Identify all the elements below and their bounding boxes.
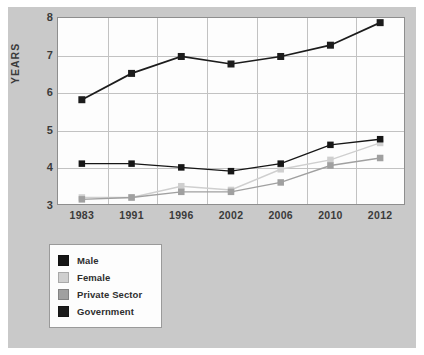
series-marker — [228, 61, 235, 68]
legend-item: Male — [58, 252, 155, 269]
legend-items: MaleFemalePrivate SectorGovernment — [58, 252, 155, 320]
y-axis-tick-label: 8 — [33, 11, 53, 23]
y-axis-title: YEARS — [9, 43, 21, 84]
legend-swatch-icon — [58, 289, 69, 300]
y-axis-tick-label: 5 — [33, 124, 53, 136]
y-axis-tick-labels: 345678 — [33, 17, 53, 205]
x-axis-tick-label: 2002 — [219, 209, 244, 221]
series-marker — [178, 53, 185, 60]
y-axis-tick-label: 7 — [33, 49, 53, 61]
legend-item-label: Female — [77, 272, 110, 283]
series-marker — [228, 168, 235, 175]
x-axis-tick-label: 2006 — [268, 209, 293, 221]
chart-figure: YEARS 345678 198319911996200220062010201… — [0, 0, 424, 355]
legend-item: Government — [58, 303, 155, 320]
series-line — [82, 139, 380, 171]
legend-swatch-icon — [58, 306, 69, 317]
x-axis-tick-label: 2010 — [318, 209, 343, 221]
y-axis-tick-label: 3 — [33, 199, 53, 211]
series-marker — [78, 96, 85, 103]
x-axis-tick-label: 2012 — [368, 209, 393, 221]
legend-item: Private Sector — [58, 286, 155, 303]
series-marker — [327, 157, 334, 164]
x-axis-tick-label: 1996 — [169, 209, 194, 221]
series-marker — [277, 166, 284, 173]
legend-item-label: Male — [77, 255, 99, 266]
series-marker — [277, 160, 284, 167]
series-marker — [377, 136, 384, 143]
series-marker — [228, 189, 235, 196]
series-marker — [128, 160, 135, 167]
series-marker — [128, 70, 135, 77]
legend-swatch-icon — [58, 255, 69, 266]
series-marker — [377, 19, 384, 26]
series-marker — [327, 162, 334, 169]
series-marker — [178, 164, 185, 171]
legend-item-label: Private Sector — [77, 289, 142, 300]
series-marker — [327, 42, 334, 49]
series-layer — [57, 17, 405, 205]
series-marker — [277, 53, 284, 60]
x-axis-tick-label: 1991 — [119, 209, 144, 221]
legend-item: Female — [58, 269, 155, 286]
x-axis-tick-labels: 1983199119962002200620102012 — [57, 209, 405, 225]
series-marker — [128, 194, 135, 201]
x-axis-tick-label: 1983 — [70, 209, 95, 221]
series-marker — [377, 155, 384, 162]
y-axis-tick-label: 6 — [33, 86, 53, 98]
series-marker — [327, 142, 334, 149]
legend-item-label: Government — [77, 306, 134, 317]
y-axis-tick-label: 4 — [33, 161, 53, 173]
series-marker — [178, 189, 185, 196]
series-marker — [79, 196, 86, 203]
series-marker — [79, 160, 86, 167]
series-marker — [178, 183, 185, 190]
legend-swatch-icon — [58, 272, 69, 283]
chart-legend: MaleFemalePrivate SectorGovernment — [49, 244, 162, 328]
series-marker — [277, 179, 284, 186]
